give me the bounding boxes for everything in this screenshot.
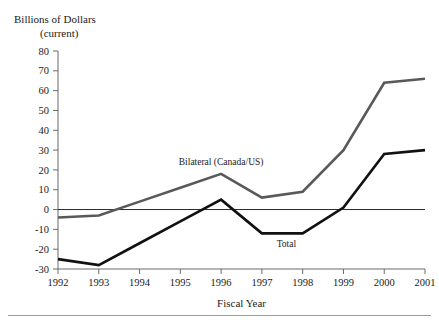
series-line-bilateral-canada-us xyxy=(58,79,425,218)
x-axis-label: Fiscal Year xyxy=(217,297,266,309)
bilateral-series-label: Bilateral (Canada/US) xyxy=(179,157,264,168)
x-tick-label: 1994 xyxy=(129,277,151,288)
x-axis-tick-group: 1992199319941995199619971998199920002001 xyxy=(48,269,436,288)
y-tick-label: 10 xyxy=(39,184,50,195)
y-tick-label: -10 xyxy=(35,224,49,235)
x-tick-label: 2001 xyxy=(415,277,436,288)
y-tick-label: 20 xyxy=(39,165,50,176)
x-tick-label: 1993 xyxy=(88,277,109,288)
x-tick-label: 1995 xyxy=(170,277,191,288)
x-tick-label: 1999 xyxy=(333,277,354,288)
y-tick-label: 30 xyxy=(39,145,50,156)
y-tick-label: -30 xyxy=(35,264,49,275)
y-tick-label: 60 xyxy=(39,85,50,96)
y-tick-label: 50 xyxy=(39,105,50,116)
y-tick-label: 0 xyxy=(44,204,49,215)
chart-figure: Billions of Dollars (current) -30-20-100… xyxy=(0,0,439,326)
y-tick-label: 80 xyxy=(39,46,50,57)
y-tick-label: 40 xyxy=(39,125,50,136)
line-chart-plot: -30-20-1001020304050607080 1992199319941… xyxy=(0,0,439,326)
x-tick-label: 1998 xyxy=(292,277,313,288)
x-tick-label: 1992 xyxy=(48,277,69,288)
total-series-label: Total xyxy=(277,239,297,249)
series-line-total xyxy=(58,150,425,265)
data-series-group xyxy=(58,79,425,265)
y-tick-label: 70 xyxy=(39,65,50,76)
y-tick-label: -20 xyxy=(35,244,49,255)
y-axis-tick-group: -30-20-1001020304050607080 xyxy=(35,46,58,275)
x-tick-label: 2000 xyxy=(374,277,395,288)
footer-divider xyxy=(8,315,431,316)
x-tick-label: 1997 xyxy=(251,277,272,288)
x-tick-label: 1996 xyxy=(211,277,232,288)
